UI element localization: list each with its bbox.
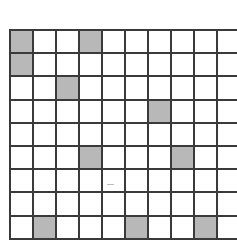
grid-cell xyxy=(126,77,149,100)
grid-cell xyxy=(195,77,218,100)
grid-cell xyxy=(149,124,172,147)
grid-cell xyxy=(195,147,218,170)
grid-cell xyxy=(80,101,103,124)
grid-cell xyxy=(80,217,103,240)
grid-cell xyxy=(103,147,126,170)
shaded-cell xyxy=(57,77,80,100)
grid-cell xyxy=(80,170,103,193)
grid-cell xyxy=(103,170,126,193)
grid-cell xyxy=(172,124,195,147)
grid-cell xyxy=(34,193,57,216)
grid-cell xyxy=(11,170,34,193)
shaded-cell xyxy=(80,31,103,54)
grid-cell xyxy=(80,124,103,147)
grid-cell xyxy=(195,31,218,54)
grid-cell xyxy=(11,77,34,100)
shaded-cell xyxy=(11,31,34,54)
grid-cell xyxy=(34,101,57,124)
grid-cell xyxy=(126,124,149,147)
grid-cell xyxy=(57,124,80,147)
grid-cell xyxy=(57,101,80,124)
grid-cell xyxy=(103,217,126,240)
grid-cell xyxy=(172,101,195,124)
grid-cell xyxy=(57,193,80,216)
grid-cell xyxy=(57,147,80,170)
grid-cell xyxy=(11,101,34,124)
shaded-cell xyxy=(195,217,218,240)
grid-cell xyxy=(80,77,103,100)
grid-cell xyxy=(34,31,57,54)
grid-cell xyxy=(218,193,237,216)
square-grid xyxy=(9,29,237,240)
grid-cell xyxy=(126,31,149,54)
grid-cell xyxy=(57,31,80,54)
grid-cell xyxy=(126,193,149,216)
grid-cell xyxy=(218,31,237,54)
grid-cell xyxy=(80,54,103,77)
grid-cell xyxy=(103,54,126,77)
grid-cell xyxy=(103,101,126,124)
grid-cell xyxy=(34,147,57,170)
grid-cell xyxy=(11,147,34,170)
small-mark xyxy=(107,184,114,185)
grid-cell xyxy=(195,124,218,147)
grid-cell xyxy=(126,101,149,124)
grid-cell xyxy=(57,170,80,193)
grid-cell xyxy=(149,217,172,240)
grid-cell xyxy=(34,77,57,100)
grid-cell xyxy=(195,170,218,193)
grid-cell xyxy=(172,193,195,216)
grid-cell xyxy=(126,147,149,170)
grid-cell xyxy=(103,77,126,100)
grid-cell xyxy=(218,77,237,100)
grid-cell xyxy=(34,170,57,193)
grid-cell xyxy=(126,54,149,77)
shaded-cell xyxy=(34,217,57,240)
grid-cell xyxy=(218,101,237,124)
grid-cell xyxy=(195,54,218,77)
grid-cell xyxy=(172,170,195,193)
grid-cell xyxy=(195,101,218,124)
shaded-cell xyxy=(80,147,103,170)
grid-cell xyxy=(80,193,103,216)
shaded-cell xyxy=(11,54,34,77)
shaded-cell xyxy=(149,101,172,124)
shaded-cell xyxy=(126,217,149,240)
grid-cell xyxy=(195,193,218,216)
grid-cell xyxy=(11,217,34,240)
grid-cell xyxy=(103,31,126,54)
grid-cell xyxy=(11,124,34,147)
grid-cell xyxy=(172,54,195,77)
grid-cell xyxy=(149,31,172,54)
grid-cell xyxy=(172,77,195,100)
grid-cell xyxy=(218,147,237,170)
grid-cell xyxy=(126,170,149,193)
grid-cell xyxy=(149,193,172,216)
grid-cell xyxy=(57,217,80,240)
grid-cell xyxy=(172,217,195,240)
grid-cell xyxy=(218,124,237,147)
grid-cell xyxy=(218,54,237,77)
grid-cell xyxy=(149,147,172,170)
grid-cell xyxy=(172,31,195,54)
grid-cell xyxy=(149,54,172,77)
grid-cell xyxy=(103,193,126,216)
grid-cell xyxy=(149,170,172,193)
grid-cell xyxy=(11,193,34,216)
grid-cell xyxy=(218,170,237,193)
grid-cell xyxy=(57,54,80,77)
shaded-cell xyxy=(172,147,195,170)
grid-cell xyxy=(149,77,172,100)
grid-cell xyxy=(218,217,237,240)
grid-cell xyxy=(103,124,126,147)
grid-cell xyxy=(34,124,57,147)
grid-cell xyxy=(34,54,57,77)
